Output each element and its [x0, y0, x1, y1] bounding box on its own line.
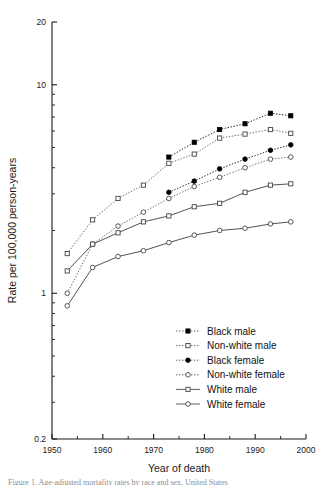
- data-marker: [186, 358, 191, 363]
- series-non-white-male: [65, 127, 293, 255]
- series-line: [67, 130, 291, 254]
- data-marker: [243, 132, 247, 136]
- series-black-female: [167, 143, 294, 195]
- data-marker: [268, 183, 272, 187]
- legend-label: White female: [207, 399, 266, 410]
- data-marker: [167, 161, 171, 165]
- data-marker: [65, 269, 69, 273]
- x-tick-label: 1980: [195, 445, 214, 455]
- data-marker: [141, 210, 146, 215]
- data-marker: [186, 373, 191, 378]
- series-white-male: [65, 182, 293, 273]
- data-marker: [167, 155, 171, 159]
- data-marker: [116, 196, 120, 200]
- data-marker: [243, 122, 247, 126]
- data-marker: [186, 344, 190, 348]
- data-marker: [141, 220, 145, 224]
- data-marker: [186, 387, 190, 391]
- data-marker: [91, 242, 95, 246]
- data-marker: [192, 179, 197, 184]
- data-marker: [192, 152, 196, 156]
- data-marker: [217, 167, 222, 172]
- x-tick-label: 1950: [43, 445, 62, 455]
- data-marker: [116, 254, 121, 259]
- data-marker: [192, 233, 197, 238]
- data-marker: [243, 190, 247, 194]
- data-marker: [167, 190, 172, 195]
- data-marker: [141, 248, 146, 253]
- legend-label: Black male: [207, 326, 256, 337]
- series-non-white-female: [65, 155, 293, 296]
- data-marker: [218, 136, 222, 140]
- data-marker: [116, 231, 120, 235]
- legend-item-non-white-female[interactable]: Non-white female: [176, 369, 285, 380]
- y-tick-label: 20: [37, 17, 47, 27]
- data-marker: [289, 114, 293, 118]
- series-black-male: [167, 111, 293, 159]
- data-marker: [268, 157, 273, 162]
- data-marker: [116, 224, 121, 229]
- series-line: [67, 184, 291, 271]
- data-marker: [167, 214, 171, 218]
- data-marker: [268, 127, 272, 131]
- series-line: [67, 157, 291, 293]
- data-marker: [167, 240, 172, 245]
- data-series-layer: [65, 111, 293, 308]
- data-marker: [243, 226, 248, 231]
- data-marker: [268, 222, 273, 227]
- x-tick-label: 1990: [246, 445, 265, 455]
- y-tick-label: 10: [37, 80, 47, 90]
- data-marker: [268, 148, 273, 153]
- x-axis-title: Year of death: [148, 462, 210, 474]
- series-line: [67, 222, 291, 306]
- chart-legend: Black maleNon-white maleBlack femaleNon-…: [176, 326, 285, 410]
- legend-item-non-white-male[interactable]: Non-white male: [176, 340, 277, 351]
- figure-caption: Figure 1. Age-adjusted mortality rates b…: [8, 478, 314, 485]
- data-marker: [217, 175, 222, 180]
- data-marker: [65, 304, 70, 309]
- data-marker: [65, 291, 70, 296]
- series-white-female: [65, 220, 293, 309]
- data-marker: [289, 131, 293, 135]
- data-marker: [288, 155, 293, 160]
- figure-container: Black maleNon-white maleBlack femaleNon-…: [0, 0, 322, 485]
- legend-item-white-female[interactable]: White female: [176, 399, 266, 410]
- legend-item-black-male[interactable]: Black male: [176, 326, 256, 337]
- legend-label: White male: [207, 384, 257, 395]
- y-axis-title: Rate per 100,000 person-years: [6, 158, 18, 303]
- legend-label: Non-white male: [207, 340, 277, 351]
- y-tick-label: 0.2: [34, 434, 46, 444]
- data-marker: [91, 218, 95, 222]
- data-marker: [186, 402, 191, 407]
- legend-label: Non-white female: [207, 369, 285, 380]
- x-tick-label: 2000: [297, 445, 316, 455]
- data-marker: [217, 228, 222, 233]
- data-marker: [192, 184, 197, 189]
- data-marker: [243, 165, 248, 170]
- data-marker: [289, 182, 293, 186]
- data-marker: [90, 265, 95, 270]
- data-marker: [167, 196, 172, 201]
- legend-item-black-female[interactable]: Black female: [176, 355, 265, 366]
- x-tick-label: 1970: [144, 445, 163, 455]
- data-marker: [186, 329, 190, 333]
- x-tick-label: 1960: [93, 445, 112, 455]
- legend-label: Black female: [207, 355, 265, 366]
- data-marker: [141, 183, 145, 187]
- y-tick-label: 1: [41, 288, 46, 298]
- data-marker: [192, 205, 196, 209]
- data-marker: [65, 251, 69, 255]
- data-marker: [192, 140, 196, 144]
- data-marker: [288, 143, 293, 148]
- data-marker: [243, 157, 248, 162]
- data-marker: [218, 201, 222, 205]
- chart-canvas: Black maleNon-white maleBlack femaleNon-…: [0, 0, 322, 485]
- data-marker: [218, 127, 222, 131]
- legend-item-white-male[interactable]: White male: [176, 384, 257, 395]
- data-marker: [268, 111, 272, 115]
- data-marker: [288, 220, 293, 225]
